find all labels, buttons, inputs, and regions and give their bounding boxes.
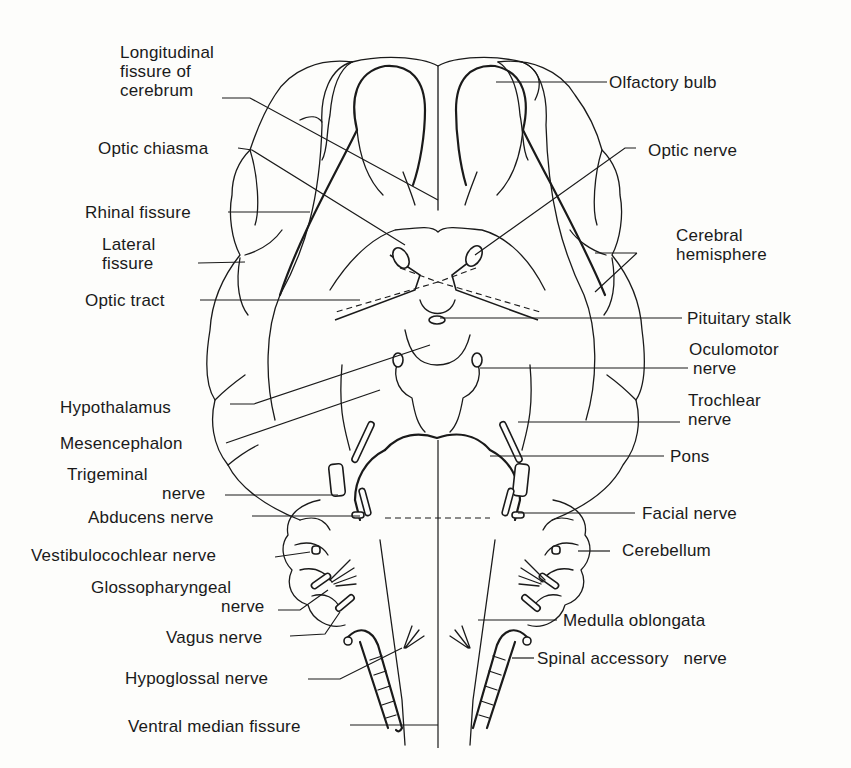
- brain-ventral-diagram: Longitudinal fissure of cerebrum Optic c…: [0, 0, 851, 768]
- label-trigeminal-nerve: Trigeminal nerve: [67, 465, 206, 503]
- label-lateral-fissure: Lateral fissure: [102, 235, 155, 273]
- label-longitudinal-fissure: Longitudinal fissure of cerebrum: [120, 43, 214, 100]
- label-optic-nerve: Optic nerve: [648, 141, 737, 160]
- label-hypothalamus: Hypothalamus: [60, 398, 171, 417]
- label-cerebral-hemisphere: Cerebral hemisphere: [676, 226, 767, 264]
- label-mesencephalon: Mesencephalon: [60, 434, 183, 453]
- label-line: Cerebral: [676, 226, 767, 245]
- label-line: nerve: [689, 359, 779, 378]
- label-line: Oculomotor: [689, 340, 779, 359]
- label-optic-chiasma: Optic chiasma: [98, 139, 208, 158]
- label-line: cerebrum: [120, 81, 214, 100]
- label-pituitary-stalk: Pituitary stalk: [687, 309, 791, 328]
- label-olfactory-bulb: Olfactory bulb: [609, 73, 717, 92]
- label-rhinal-fissure: Rhinal fissure: [85, 203, 191, 222]
- left-hemisphere: [207, 61, 352, 520]
- label-trochlear-nerve: Trochlear nerve: [688, 391, 761, 429]
- label-medulla-oblongata: Medulla oblongata: [563, 611, 705, 630]
- label-optic-tract: Optic tract: [85, 291, 165, 310]
- label-line: nerve: [67, 484, 206, 503]
- label-vagus-nerve: Vagus nerve: [166, 628, 262, 647]
- label-facial-nerve: Facial nerve: [642, 504, 737, 523]
- label-ventral-median-fissure: Ventral median fissure: [128, 717, 301, 736]
- right-hemisphere: [498, 61, 644, 520]
- label-line: fissure of: [120, 62, 214, 81]
- olfactory-bulbs: [354, 66, 526, 205]
- label-abducens-nerve: Abducens nerve: [88, 508, 214, 527]
- label-line: Lateral: [102, 235, 155, 254]
- label-cerebellum: Cerebellum: [622, 541, 711, 560]
- label-line: hemisphere: [676, 245, 767, 264]
- label-line: Longitudinal: [120, 43, 214, 62]
- label-pons: Pons: [670, 447, 710, 466]
- label-hypoglossal-nerve: Hypoglossal nerve: [125, 669, 268, 688]
- label-line: nerve: [91, 597, 265, 616]
- label-line: Trigeminal: [67, 465, 206, 484]
- label-glossopharyngeal-nerve: Glossopharyngeal nerve: [91, 578, 265, 616]
- optic-chiasma: [330, 228, 545, 320]
- label-line: nerve: [688, 410, 761, 429]
- pituitary-stalk-shape: [429, 316, 445, 324]
- label-line: Trochlear: [688, 391, 761, 410]
- label-oculomotor-nerve: Oculomotor nerve: [689, 340, 779, 378]
- label-line: Glossopharyngeal: [91, 578, 265, 597]
- label-spinal-accessory-nerve: Spinal accessory nerve: [537, 649, 727, 668]
- label-line: fissure: [102, 254, 155, 273]
- label-vestibulocochlear-nerve: Vestibulocochlear nerve: [31, 546, 216, 565]
